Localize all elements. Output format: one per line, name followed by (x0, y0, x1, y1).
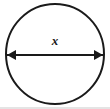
figure-container: x (0, 0, 110, 109)
diameter-label: x (51, 33, 59, 48)
circle-diameter-diagram: x (0, 0, 110, 109)
